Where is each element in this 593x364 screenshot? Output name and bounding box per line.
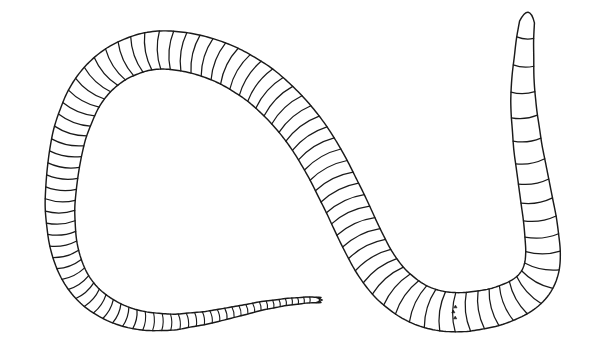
worm-illustration-canvas: Segmented worm line drawing xyxy=(0,0,593,364)
worm-drawing: Segmented worm line drawing xyxy=(0,0,593,364)
worm-body-outline xyxy=(45,12,560,332)
worm-body-group xyxy=(45,12,560,332)
